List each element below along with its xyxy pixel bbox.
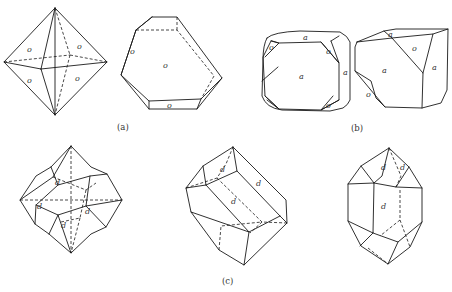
face-label-o: o [269,43,274,52]
face-label-o: o [27,76,32,85]
face-label-a: a [432,63,437,72]
face-label-d: d [85,207,90,216]
face-label-d: d [400,163,405,172]
face-label-d: d [381,202,386,211]
face-label-d: d [37,202,42,211]
face-label-a: a [388,30,393,39]
face-label-d: d [381,163,386,172]
face-label-o: o [366,90,371,99]
cube-octahedron-crystal: a a a o o o [262,31,350,111]
caption-c: (c) [222,276,233,286]
face-label-a: a [343,68,348,77]
face-label-d: d [231,197,236,206]
face-label-d: d [256,179,261,188]
caption-b: (b) [351,123,363,133]
elongated-dodecahedron-oblique-crystal: d d d [186,147,287,265]
crystal-forms-figure: o o o o o o o (a) a a a o o [0,0,452,292]
face-label-o: o [27,45,32,54]
face-label-a: a [303,33,308,42]
rhombic-dodecahedron-crystal: d d d d [20,146,122,253]
caption-a: (a) [117,122,129,132]
distorted-cube-crystal: a a a o o [355,29,448,108]
face-label-d: d [55,178,60,187]
face-label-o: o [326,47,331,56]
face-label-o: o [412,44,417,53]
octahedron-plate-crystal: o o o [121,17,222,110]
face-label-o: o [75,74,80,83]
face-label-o: o [167,101,172,110]
face-label-o: o [163,61,168,70]
face-label-o: o [77,42,82,51]
face-label-a: a [299,72,304,81]
elongated-dodecahedron-vertical-crystal: d d d [348,148,422,264]
face-label-d: d [220,165,225,174]
face-label-o: o [130,47,135,56]
face-label-o: o [326,101,331,110]
octahedron-crystal: o o o o [4,8,107,115]
face-label-d: d [61,221,66,230]
face-label-a: a [382,66,387,75]
